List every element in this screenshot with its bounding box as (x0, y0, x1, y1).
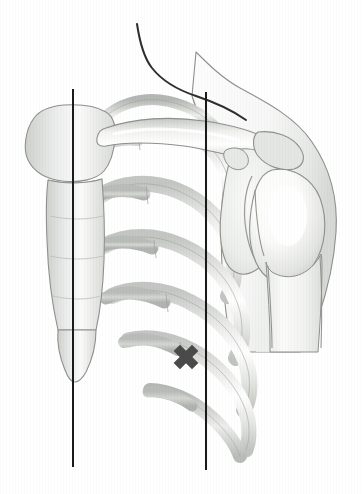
sternal-body (46, 179, 104, 330)
costal-cartilage-4 (97, 242, 152, 248)
anatomical-figure: Anterior chest wall landmark diagram Rig… (0, 0, 363, 494)
humeral-head-highlight (269, 186, 307, 246)
chest-wall-illustration (0, 0, 363, 494)
